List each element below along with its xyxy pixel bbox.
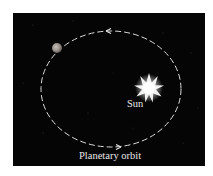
planetary-orbit-label: Planetary orbit [79,151,141,162]
planet-icon [52,43,62,53]
orbit-diagram [13,13,205,166]
diagram-panel: Sun Planetary orbit [13,13,205,166]
sun-core [143,82,155,94]
background-stars [23,21,199,144]
sun-label: Sun [127,99,143,110]
